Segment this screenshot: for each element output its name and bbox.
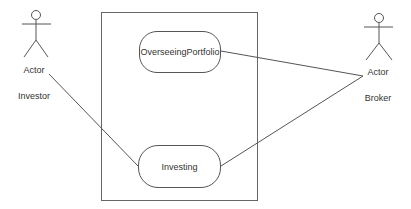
actor-broker-icon[interactable]: [364, 14, 393, 61]
usecase-overseeing-portfolio-label: OverseeingPortfolio: [140, 47, 219, 57]
usecase-investing-label: Investing: [161, 162, 197, 172]
association-investing-broker[interactable]: [221, 76, 363, 166]
association-investor-investing[interactable]: [49, 74, 138, 166]
usecase-investing[interactable]: Investing: [138, 145, 221, 188]
actor-investor-icon[interactable]: [22, 11, 51, 58]
usecase-overseeing-portfolio[interactable]: OverseeingPortfolio: [139, 31, 221, 73]
actor-investor-name: Investor: [18, 92, 50, 101]
actor-broker-stereotype-label: Actor: [367, 68, 388, 77]
actor-broker-name: Broker: [365, 94, 392, 103]
actor-investor-stereotype-label: Actor: [23, 66, 44, 75]
association-overseeing-broker[interactable]: [221, 51, 363, 76]
